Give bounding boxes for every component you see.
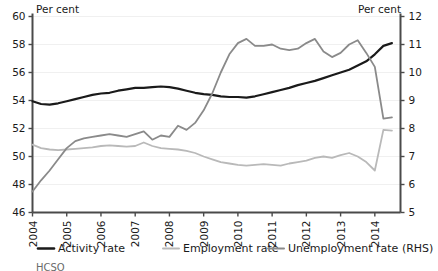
x-tick-label: 2004 bbox=[27, 220, 39, 247]
chart-legend: Activity rateEmployment rateUnemployment… bbox=[38, 242, 433, 255]
left-tick-label: 52 bbox=[12, 122, 25, 134]
left-tick-label: 48 bbox=[12, 178, 25, 190]
left-tick-label: 50 bbox=[12, 150, 25, 162]
left-tick-label: 60 bbox=[12, 10, 25, 22]
right-tick-label: 9 bbox=[409, 94, 416, 106]
right-tick-label: 12 bbox=[409, 10, 422, 22]
left-tick-label: 58 bbox=[12, 38, 25, 50]
legend-label-2: Unemployment rate (RHS) bbox=[288, 242, 433, 255]
left-tick-label: 54 bbox=[12, 94, 26, 106]
x-tick-label: 2008 bbox=[163, 221, 175, 248]
left-tick-label: 56 bbox=[12, 66, 26, 78]
line-chart: 4648505254565860 56789101112 20042005200… bbox=[0, 0, 438, 271]
right-tick-label: 5 bbox=[409, 206, 416, 218]
left-axis-title: Per cent bbox=[36, 3, 79, 15]
right-tick-label: 8 bbox=[409, 122, 416, 134]
chart-container: 4648505254565860 56789101112 20042005200… bbox=[0, 0, 438, 271]
right-tick-label: 7 bbox=[409, 150, 416, 162]
left-tick-label: 46 bbox=[12, 206, 26, 218]
right-tick-label: 10 bbox=[409, 66, 422, 78]
right-axis-title: Per cent bbox=[358, 3, 401, 15]
legend-label-0: Activity rate bbox=[58, 242, 125, 255]
right-tick-label: 11 bbox=[409, 38, 422, 50]
right-tick-label: 6 bbox=[409, 178, 416, 190]
legend-label-1: Employment rate bbox=[183, 242, 279, 255]
x-tick-label: 2007 bbox=[129, 221, 141, 248]
source-footnote: HCSO bbox=[36, 262, 65, 271]
